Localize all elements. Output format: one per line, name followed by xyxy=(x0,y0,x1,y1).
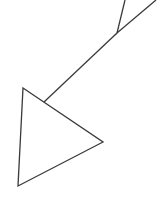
diagram-canvas xyxy=(0,0,163,201)
bottom-triangle xyxy=(18,88,103,186)
top-triangle-partial xyxy=(117,0,156,33)
connector-line xyxy=(44,33,117,102)
